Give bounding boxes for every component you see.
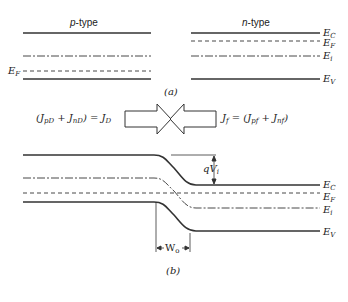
- diffusion-arrow-icon: [125, 104, 171, 134]
- p-type-bands: [23, 33, 151, 79]
- junction-bands: [23, 155, 320, 252]
- p-type-title: p-type: [70, 18, 98, 28]
- junction-ev-label: EV: [323, 227, 335, 239]
- n-ev-label: EV: [323, 74, 335, 86]
- n-type-bands: [191, 33, 320, 79]
- junction-ei-label: Ei: [323, 205, 333, 217]
- drift-arrow-icon: [170, 104, 216, 134]
- diffusion-current-equation: (JpD + JnD) = JD: [36, 113, 111, 125]
- barrier-arrowhead-up-icon: [212, 156, 216, 161]
- current-arrows: [125, 104, 216, 134]
- n-ef-label: EF: [323, 38, 335, 50]
- barrier-potential-label: qVi: [203, 164, 219, 176]
- caption-a: (a): [164, 87, 178, 97]
- n-ei-label: Ei: [323, 51, 333, 63]
- junction-conduction-band: [23, 155, 320, 185]
- p-fermi-label: EF: [8, 66, 20, 78]
- depletion-width-label: Wo: [165, 243, 180, 255]
- junction-ef-label: EF: [323, 192, 335, 204]
- depletion-arrowhead-left-icon: [157, 246, 161, 250]
- n-type-title: n-type: [242, 18, 270, 28]
- band-diagram-canvas: [0, 0, 348, 302]
- junction-valence-band: [23, 202, 320, 231]
- drift-current-equation: Jf = (Jpf + Jnf): [222, 113, 288, 125]
- barrier-arrowhead-down-icon: [212, 179, 216, 184]
- depletion-arrowhead-right-icon: [185, 246, 189, 250]
- caption-b: (b): [166, 266, 180, 276]
